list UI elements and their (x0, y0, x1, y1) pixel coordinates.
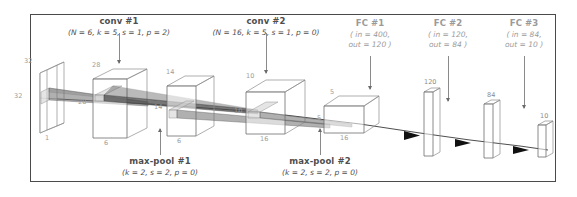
dim-pool1-depth: 6 (177, 137, 181, 145)
dim-conv1-depth: 6 (104, 139, 108, 147)
label-fc1-out: out = 120 ) (333, 40, 407, 49)
dim-conv2-depth: 16 (260, 135, 268, 143)
label-fc3: FC #3 ( in = 84, out = 10 ) (487, 18, 561, 49)
pointer-conv1 (119, 33, 120, 63)
dim-input-side: 32 (14, 92, 22, 100)
fc-bar-120 (424, 88, 440, 156)
dim-input-depth: 1 (45, 134, 49, 142)
dim-conv2-side: 10 (234, 107, 242, 115)
dim-fc3-units: 10 (540, 112, 548, 120)
dim-conv1-top: 28 (92, 61, 100, 69)
label-maxpool1-params: (k = 2, s = 2, p = 0) (95, 168, 225, 177)
label-maxpool1-title: max-pool #1 (95, 156, 225, 167)
pointer-maxpool1 (160, 129, 161, 155)
label-conv2-title: conv #2 (190, 16, 342, 27)
dim-pool1-top: 14 (166, 68, 174, 76)
label-maxpool1: max-pool #1 (k = 2, s = 2, p = 0) (95, 156, 225, 177)
dim-pool2-depth: 16 (340, 134, 348, 142)
label-fc3-out: out = 10 ) (487, 40, 561, 49)
label-fc3-in: ( in = 84, (487, 30, 561, 39)
figure-root: conv #1 (N = 6, k = 5, s = 1, p = 2) con… (0, 0, 577, 197)
label-fc1-in: ( in = 400, (333, 30, 407, 39)
label-fc2-in: ( in = 120, (411, 30, 485, 39)
label-maxpool2: max-pool #2 (k = 2, s = 2, p = 0) (255, 156, 385, 177)
label-fc1: FC #1 ( in = 400, out = 120 ) (333, 18, 407, 49)
dim-fc2-units: 84 (487, 91, 495, 99)
dim-pool2-top: 5 (330, 88, 334, 96)
pointer-maxpool2 (320, 129, 321, 155)
label-fc1-title: FC #1 (333, 18, 407, 29)
pointer-conv2 (266, 33, 267, 73)
dim-conv2-top: 10 (246, 72, 254, 80)
dim-pool2-side: 5 (317, 114, 321, 122)
dim-pool1-side: 14 (154, 103, 162, 111)
pointer-fc2 (448, 56, 449, 101)
label-fc3-title: FC #3 (487, 18, 561, 29)
dim-input-top: 32 (24, 57, 32, 65)
label-fc2-title: FC #2 (411, 18, 485, 29)
pointer-fc1 (370, 56, 371, 89)
fc-bar-84 (484, 100, 500, 158)
label-maxpool2-params: (k = 2, s = 2, p = 0) (255, 168, 385, 177)
label-fc2-out: out = 84 ) (411, 40, 485, 49)
fc-bar-10 (538, 121, 553, 157)
dim-conv1-side: 28 (78, 98, 86, 106)
label-maxpool2-title: max-pool #2 (255, 156, 385, 167)
volume-pool2-out (324, 96, 379, 133)
label-fc2: FC #2 ( in = 120, out = 84 ) (411, 18, 485, 49)
label-conv1-title: conv #1 (44, 16, 194, 27)
dim-fc1-units: 120 (424, 78, 436, 86)
pointer-fc3 (524, 56, 525, 108)
